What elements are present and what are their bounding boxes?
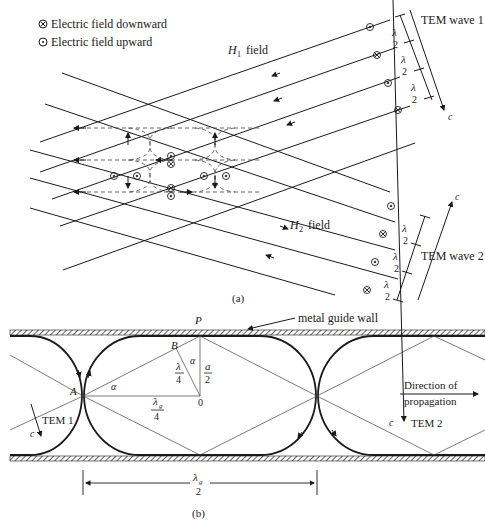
svg-text:λ: λ (410, 81, 416, 93)
svg-text:λ: λ (383, 278, 389, 290)
tem1-label: TEM 1 (42, 414, 73, 426)
svg-text:2: 2 (403, 235, 408, 246)
svg-text:λ: λ (152, 395, 158, 407)
alpha-o-label: α (190, 355, 196, 366)
svg-text:2: 2 (299, 225, 303, 234)
svg-text:4: 4 (176, 374, 181, 385)
svg-text:λ: λ (192, 471, 198, 483)
tem2-label: TEM 2 (411, 417, 442, 429)
tem2-c-label: c (389, 417, 394, 428)
svg-text:1: 1 (237, 50, 241, 59)
point-p-label: P (194, 314, 202, 326)
svg-text:λ: λ (400, 53, 406, 65)
point-b-label: B (171, 339, 178, 351)
alpha-a-label: α (111, 381, 117, 392)
wall-pointer (248, 318, 295, 329)
svg-text:2: 2 (402, 66, 407, 77)
lambda-g-over-4-label: λ g 4 (151, 395, 164, 422)
wave2-c-label: c (455, 191, 460, 202)
h2-field-label: H 2 field (289, 218, 330, 234)
metal-guide-wall-label: metal guide wall (298, 311, 379, 325)
svg-text:2: 2 (385, 291, 390, 302)
circle-cross-icon (39, 20, 47, 28)
svg-text:g: g (159, 402, 163, 410)
point-a-label: A (69, 385, 77, 397)
svg-text:2: 2 (196, 486, 201, 497)
bottom-guide-wall (10, 456, 485, 461)
direction-label-line2: propagation (404, 395, 457, 407)
legend: Electric field downward Electric field u… (39, 17, 167, 49)
wave1-c-label: c (448, 111, 453, 122)
svg-text:4: 4 (154, 411, 159, 422)
direction-label-line1: Direction of (404, 379, 458, 391)
top-guide-wall (10, 330, 485, 335)
caption-a: (a) (232, 292, 245, 305)
svg-text:a: a (205, 360, 211, 372)
lambda-g-over-2-label: λ g 2 (192, 471, 203, 497)
h1-field-label: H 1 field (227, 43, 268, 59)
legend-downward-label: Electric field downward (51, 17, 167, 31)
svg-text:field: field (246, 43, 268, 57)
panel-a (30, 20, 415, 295)
svg-text:2: 2 (205, 374, 210, 385)
svg-text:λ: λ (392, 250, 398, 262)
svg-text:2: 2 (412, 94, 417, 105)
svg-text:λ: λ (401, 222, 407, 234)
svg-text:2: 2 (394, 263, 399, 274)
a-over-2-label: a 2 (204, 360, 212, 385)
caption-b: (b) (192, 507, 205, 520)
tem-wave-1-label: TEM wave 1 (421, 13, 484, 27)
point-o-label: 0 (198, 397, 203, 408)
svg-text:field: field (308, 218, 330, 232)
legend-upward-label: Electric field upward (51, 35, 152, 49)
e-field-lines (80, 128, 260, 192)
svg-text:g: g (199, 478, 203, 486)
diagram-canvas: Electric field downward Electric field u… (0, 0, 485, 523)
circle-dot-icon (39, 38, 47, 46)
tem1-c-label: c (30, 428, 35, 439)
lambda-over-4-label: λ 4 (175, 360, 184, 385)
svg-text:λ: λ (175, 360, 181, 372)
tem-wave-2-label: TEM wave 2 (421, 249, 484, 263)
